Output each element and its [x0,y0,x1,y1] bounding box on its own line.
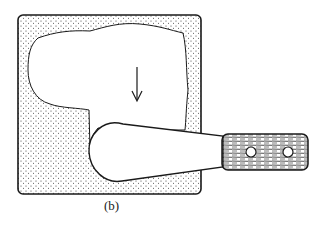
rivet-left [246,147,256,157]
knife-blade [89,123,223,182]
figure-caption: (b) [0,198,223,214]
illustration [0,0,321,231]
knife-handle [222,134,308,170]
rivet-right [283,147,293,157]
